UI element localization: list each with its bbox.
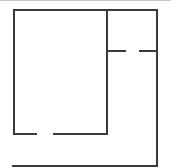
floor-plan-diagram <box>0 0 171 168</box>
